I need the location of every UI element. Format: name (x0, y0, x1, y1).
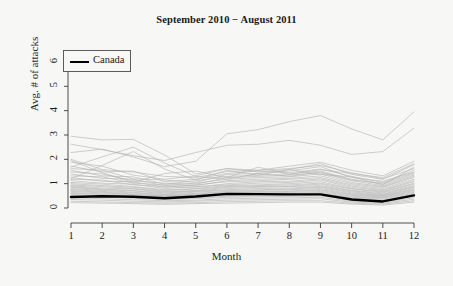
x-tick-label: 9 (318, 230, 323, 241)
chart-title: September 2010 − August 2011 (0, 14, 453, 25)
x-tick-label: 11 (378, 230, 388, 241)
x-tick-label: 2 (100, 230, 105, 241)
x-tick-label: 1 (68, 230, 73, 241)
y-tick-label: 1 (48, 175, 59, 189)
chart-container: September 2010 − August 2011 Avg. # of a… (0, 0, 453, 286)
x-tick-label: 8 (287, 230, 292, 241)
y-tick-label: 2 (48, 151, 59, 165)
y-tick-label: 4 (48, 102, 59, 116)
legend-box: Canada (63, 50, 131, 72)
x-tick-label: 10 (346, 230, 357, 241)
legend-line-swatch (70, 61, 89, 63)
y-tick-label: 6 (48, 54, 59, 68)
x-tick-marks (71, 223, 414, 228)
y-tick-label: 5 (48, 78, 59, 92)
y-axis-title: Avg. # of attacks (28, 0, 40, 154)
x-tick-label: 12 (409, 230, 420, 241)
legend-label-canada: Canada (93, 54, 125, 65)
x-tick-label: 7 (255, 230, 260, 241)
series-line (71, 147, 414, 183)
y-tick-label: 3 (48, 127, 59, 141)
x-tick-label: 5 (193, 230, 198, 241)
x-tick-label: 6 (224, 230, 229, 241)
x-tick-label: 3 (131, 230, 136, 241)
y-tick-marks (64, 62, 68, 208)
y-tick-label: 0 (48, 200, 59, 214)
x-tick-label: 4 (162, 230, 167, 241)
x-axis-title: Month (0, 250, 453, 262)
plot-area (0, 0, 453, 286)
series-lines (71, 112, 414, 205)
